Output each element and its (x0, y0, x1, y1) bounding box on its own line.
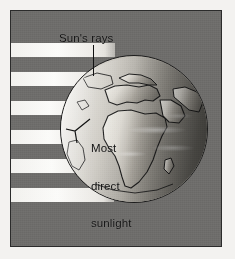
illustration-figure: Sun's rays Most direct sunlight (0, 0, 235, 259)
label-suns-rays: Sun's rays (59, 32, 113, 45)
label-line-2: direct (91, 180, 131, 193)
leader-line-most-direct-sunlight (61, 111, 95, 147)
label-line-3: sunlight (91, 217, 131, 230)
figure-frame: Sun's rays Most direct sunlight (10, 10, 222, 247)
label-most-direct-sunlight: Most direct sunlight (91, 117, 131, 246)
label-line-1: Most (91, 142, 131, 155)
leader-line-suns-rays (93, 45, 94, 76)
figure-plate: Sun's rays Most direct sunlight (11, 11, 221, 246)
